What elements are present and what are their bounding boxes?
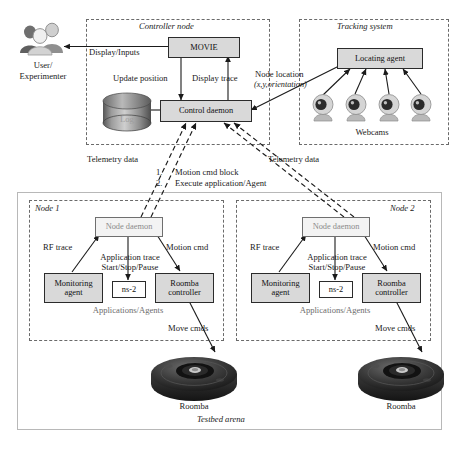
note-2-number: 2. — [156, 179, 162, 188]
node1-move-cmds-label: Move cmds — [168, 324, 208, 333]
roomba-robot-1 — [148, 348, 240, 404]
webcam-icon-3 — [374, 92, 404, 122]
locating-agent-block[interactable]: Locating agent — [337, 48, 423, 69]
node2-roomba-controller-line2: controller — [375, 288, 408, 297]
node1-applications-agents-label: Applications/Agents — [78, 306, 178, 315]
node2-monitoring-agent-block[interactable]: Monitoring agent — [251, 273, 310, 303]
node1-roomba-controller-line1: Roomba — [170, 279, 198, 288]
webcam-icon-1 — [308, 92, 338, 122]
node2-motion-cmd-label: Motion cmd — [373, 243, 415, 252]
node2-roomba-controller-block[interactable]: Roomba controller — [362, 273, 421, 303]
node1-monitoring-agent-block[interactable]: Monitoring agent — [44, 273, 103, 303]
node2-ns2-block[interactable]: ns-2 — [319, 281, 353, 298]
node1-rf-trace-label: RF trace — [43, 243, 72, 252]
node1-roomba-controller-block[interactable]: Roomba controller — [155, 273, 214, 303]
note-1-text: Motion cmd block — [175, 168, 239, 177]
roomba-1-label: Roomba — [156, 402, 232, 411]
movie-block[interactable]: MOVIE — [168, 37, 240, 58]
display-trace-label: Display trace — [192, 74, 238, 83]
node1-start-stop-pause-label: Start/Stop/Pause — [80, 263, 180, 272]
node1-roomba-controller-line2: controller — [168, 288, 201, 297]
control-daemon-block[interactable]: Control daemon — [160, 100, 252, 122]
display-inputs-label: Display/Inputs — [89, 48, 140, 57]
node2-applications-agents-label: Applications/Agents — [285, 306, 385, 315]
node1-monitoring-agent-line2: agent — [64, 288, 82, 297]
note-1-number: 1. — [156, 168, 162, 177]
node1-application-trace-label: Application trace — [80, 253, 180, 262]
node2-move-cmds-label: Move cmds — [375, 324, 415, 333]
people-group-icon — [18, 22, 66, 56]
node1-ns2-block[interactable]: ns-2 — [112, 281, 146, 298]
note-2-text: Execute application/Agent — [175, 179, 266, 188]
telemetry-right-label: Telemetry data — [268, 155, 319, 164]
node2-application-trace-label: Application trace — [287, 253, 387, 262]
node2-roomba-controller-line1: Roomba — [377, 279, 405, 288]
update-position-label: Update position — [113, 74, 168, 83]
user-label-line2: Experimenter — [6, 72, 80, 81]
node-location-label-line1: Node location — [255, 70, 303, 79]
node2-node-daemon-block[interactable]: Node daemon — [302, 217, 370, 237]
node1-node-daemon-block[interactable]: Node daemon — [95, 217, 163, 237]
webcam-icon-4 — [406, 92, 436, 122]
node1-motion-cmd-label: Motion cmd — [166, 243, 208, 252]
node2-monitoring-agent-line2: agent — [271, 288, 289, 297]
node-location-label-line2: (x,y,orientation) — [254, 81, 307, 90]
log-datastore[interactable] — [101, 92, 153, 132]
webcams-label: Webcams — [337, 128, 407, 137]
diagram-canvas: Controller node Tracking system Testbed … — [0, 0, 457, 456]
log-label: Log — [101, 115, 153, 124]
user-label-line1: User/ — [20, 61, 66, 70]
webcam-icon-2 — [341, 92, 371, 122]
telemetry-left-label: Telemetry data — [87, 155, 138, 164]
roomba-2-label: Roomba — [363, 402, 439, 411]
node2-rf-trace-label: RF trace — [250, 243, 279, 252]
node1-monitoring-agent-line1: Monitoring — [54, 279, 92, 288]
roomba-robot-2 — [355, 348, 447, 404]
node2-start-stop-pause-label: Start/Stop/Pause — [287, 263, 387, 272]
node2-monitoring-agent-line1: Monitoring — [261, 279, 299, 288]
